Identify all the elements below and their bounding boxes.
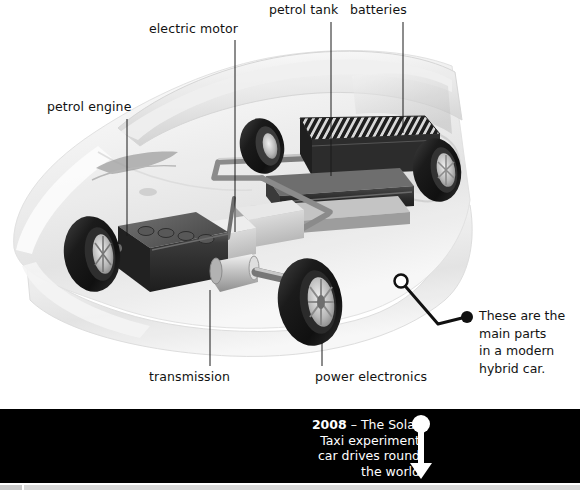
bottom-strip-segment-right	[24, 485, 580, 490]
annotation-caption: These are the main parts in a modern hyb…	[479, 307, 579, 377]
hybrid-car-diagram: electric motor petrol tank batteries pet…	[0, 0, 580, 405]
label-power-electronics: power electronics	[315, 370, 427, 384]
timeline-line-4: the world	[312, 464, 420, 480]
annotation-line-3: in a modern	[479, 342, 579, 360]
timeline-line-2: Taxi experiment	[312, 433, 420, 449]
page-root: electric motor petrol tank batteries pet…	[0, 0, 580, 490]
label-transmission: transmission	[149, 370, 230, 384]
timeline-caption: 2008 – The Solar Taxi experiment car dri…	[312, 417, 420, 479]
page-bottom-strip	[0, 483, 580, 490]
timeline-line-1: 2008 – The Solar	[312, 417, 420, 433]
timeline-year: 2008	[312, 417, 347, 432]
timeline-line-3: car drives round	[312, 448, 420, 464]
label-petrol-tank: petrol tank	[269, 3, 338, 17]
label-batteries: batteries	[350, 3, 407, 17]
timeline-band: 2008 – The Solar Taxi experiment car dri…	[0, 409, 580, 483]
circle-with-down-arrow-icon	[406, 415, 436, 481]
pointer-open-circle	[395, 275, 408, 288]
annotation-line-4: hybrid car.	[479, 360, 579, 378]
bottom-strip-segment-left	[0, 485, 22, 490]
annotation-line-2: main parts	[479, 325, 579, 343]
label-electric-motor: electric motor	[149, 22, 238, 36]
label-petrol-engine: petrol engine	[47, 100, 131, 114]
pointer-filled-dot	[461, 311, 473, 323]
annotation-line-1: These are the	[479, 307, 579, 325]
